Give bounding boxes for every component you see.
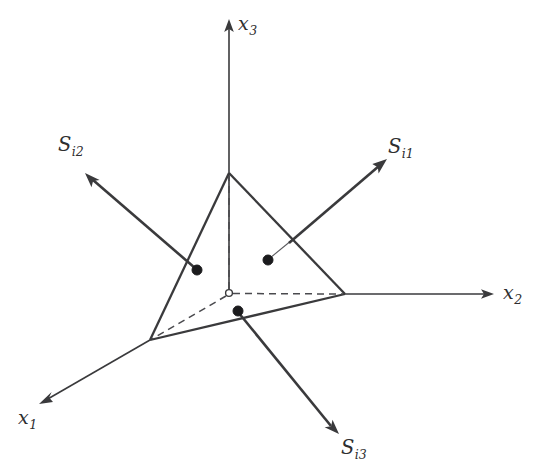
x1-axis-label: x1 (18, 408, 37, 427)
x3-label-subscript: 3 (249, 23, 257, 38)
s-i1-label-subscript: i1 (402, 146, 414, 161)
s-i1-label: Si1 (388, 137, 413, 157)
dashed-origin-to-x1-vertex (152, 296, 226, 339)
x1-label-subscript: 1 (29, 417, 37, 432)
dashed-group (152, 176, 343, 339)
s-i1-stub-line (270, 240, 292, 258)
diagram-svg (0, 0, 543, 475)
s-i2-label-base: S (58, 133, 71, 156)
x3-label-base: x (238, 12, 249, 34)
triangle-group (150, 173, 345, 340)
s-i3-base-dot (233, 306, 243, 316)
s-i2-vector-group (85, 173, 202, 275)
s-i1-vector-group (263, 159, 387, 265)
x3-axis-label: x3 (238, 14, 257, 33)
x1-label-base: x (18, 406, 29, 428)
s-i3-label-subscript: i3 (355, 447, 367, 462)
x2-label-subscript: 2 (514, 292, 522, 307)
s-i3-vector-group (233, 306, 339, 434)
s-i3-label: Si3 (341, 438, 366, 458)
s-i2-base-dot (192, 265, 202, 275)
s-i1-arrow-line (289, 166, 379, 243)
axis-group-x1 (39, 340, 150, 404)
s-i1-label-base: S (388, 135, 401, 158)
s-i2-label: Si2 (58, 135, 83, 155)
origin-marker (226, 290, 233, 297)
x1-axis-line (46, 340, 150, 400)
dashed-origin-to-x2-vertex (233, 294, 343, 295)
figure-canvas: x3 x2 x1 Si1 Si2 Si3 (0, 0, 543, 475)
triangle-edge-bottom (150, 294, 345, 340)
s-i2-arrow-line (93, 180, 195, 268)
s-i1-base-dot (263, 255, 273, 265)
triangle-edge-top-right (229, 173, 345, 294)
triangle-edge-top-left (150, 173, 229, 340)
x2-axis-label: x2 (503, 283, 522, 302)
axis-group-x2 (345, 289, 494, 299)
s-i2-label-subscript: i2 (72, 144, 84, 159)
s-i3-arrow-line (238, 312, 331, 426)
x2-label-base: x (503, 281, 514, 303)
s-i3-label-base: S (341, 436, 354, 459)
